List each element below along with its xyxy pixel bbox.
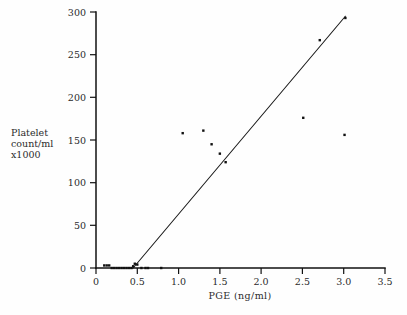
scatter-plot-figure: Platelet count/ml x1000 0 50 100 150 200… bbox=[0, 0, 407, 315]
y-axis-ticks bbox=[90, 12, 96, 268]
data-point bbox=[144, 267, 146, 269]
data-point bbox=[140, 267, 142, 269]
x-tick-label-3-0: 3.0 bbox=[336, 276, 351, 287]
x-tick-label-2-5: 2.5 bbox=[295, 276, 310, 287]
data-points-layer bbox=[103, 17, 347, 269]
x-axis-ticks bbox=[96, 268, 385, 274]
data-point bbox=[319, 39, 321, 41]
data-point bbox=[132, 265, 134, 267]
data-point bbox=[302, 117, 304, 119]
y-axis-label-line-3: x1000 bbox=[11, 149, 41, 160]
regression-fit-line bbox=[133, 16, 345, 268]
data-point bbox=[110, 267, 112, 269]
data-point bbox=[202, 129, 204, 131]
y-axis-label: Platelet count/ml x1000 bbox=[11, 127, 53, 160]
x-tick-label-2-0: 2.0 bbox=[254, 276, 269, 287]
data-point bbox=[128, 267, 130, 269]
y-tick-label-50: 50 bbox=[74, 220, 86, 231]
data-point bbox=[136, 263, 138, 265]
data-point bbox=[103, 264, 105, 266]
data-point bbox=[344, 17, 346, 19]
y-tick-label-150: 150 bbox=[68, 135, 86, 146]
data-point bbox=[118, 267, 120, 269]
data-point bbox=[106, 264, 108, 266]
data-point bbox=[147, 267, 149, 269]
data-point bbox=[125, 267, 127, 269]
y-tick-label-100: 100 bbox=[68, 177, 86, 188]
x-tick-label-0-5: 0.5 bbox=[130, 276, 145, 287]
y-axis-label-line-1: Platelet bbox=[11, 127, 48, 138]
data-point bbox=[123, 267, 125, 269]
data-point bbox=[115, 267, 117, 269]
data-point bbox=[113, 267, 115, 269]
y-tick-label-0: 0 bbox=[80, 263, 86, 274]
data-point bbox=[343, 134, 345, 136]
x-axis-tick-labels: 0 0.5 1.0 1.5 2.0 2.5 3.0 3.5 bbox=[93, 276, 393, 287]
data-point bbox=[182, 132, 184, 134]
y-axis-label-line-2: count/ml bbox=[11, 138, 53, 149]
y-tick-label-250: 250 bbox=[68, 49, 86, 60]
data-point bbox=[224, 161, 226, 163]
y-axis-tick-labels: 0 50 100 150 200 250 300 bbox=[68, 7, 86, 274]
x-axis-title: PGE (ng/ml) bbox=[208, 290, 271, 301]
data-point bbox=[120, 267, 122, 269]
x-tick-label-3-5: 3.5 bbox=[377, 276, 392, 287]
y-tick-label-300: 300 bbox=[68, 7, 86, 18]
data-point bbox=[108, 264, 110, 266]
data-point bbox=[134, 263, 136, 265]
plot-canvas: Platelet count/ml x1000 0 50 100 150 200… bbox=[0, 0, 407, 315]
y-tick-label-200: 200 bbox=[68, 92, 86, 103]
x-tick-label-1-0: 1.0 bbox=[171, 276, 186, 287]
data-point bbox=[210, 143, 212, 145]
data-point bbox=[160, 267, 162, 269]
x-tick-label-1-5: 1.5 bbox=[212, 276, 227, 287]
x-tick-label-0: 0 bbox=[93, 276, 99, 287]
data-point bbox=[219, 152, 221, 154]
